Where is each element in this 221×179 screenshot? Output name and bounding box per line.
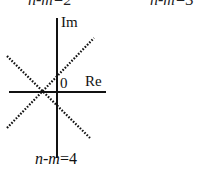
diagram-caption: n-m=4 [35,151,77,167]
origin-label: 0 [60,76,68,91]
real-axis-label: Re [85,74,102,89]
imaginary-axis-label: Im [61,15,78,30]
caption-m: m [48,150,60,167]
complex-plane-diagram [0,0,221,179]
asymptote-line-rising [7,38,94,128]
asymptote-line-falling [7,56,90,138]
caption-n: n [35,150,43,167]
caption-eq: =4 [60,150,77,167]
